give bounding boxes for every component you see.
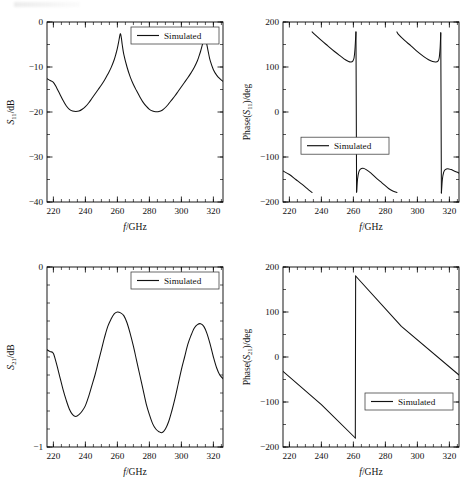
x-tick-label: 300 [411,206,425,216]
series-line [312,32,356,62]
series-line [47,34,223,112]
chart-svg-s11-magnitude: 2202402602803003200−10−20−30−40f/GHzS11/… [0,0,235,245]
chart-panel-s21-phase: 2202402602803003202001000−100−200f/GHzPh… [236,245,471,490]
series-line [283,371,355,438]
y-tick-label: −40 [29,197,44,207]
y-tick-label: −10 [29,62,44,72]
series-line [47,312,223,433]
legend-label: Simulated [164,276,202,286]
legend-label: Simulated [334,141,372,151]
y-tick-label: −30 [29,152,44,162]
legend-label: Simulated [398,397,436,407]
x-axis-label: f/GHz [359,221,382,232]
chart-svg-s11-phase: 2202402602803003202001000−100−200f/GHzPh… [236,0,471,245]
series-line [397,32,441,62]
y-tick-label: −100 [260,152,279,162]
y-axis-label: Phase(S11)/deg [241,84,253,141]
y-tick-label: 0 [38,17,43,27]
chart-svg-s21-phase: 2202402602803003202001000−100−200f/GHzPh… [236,245,471,490]
legend: Simulated [131,272,219,289]
data-curve-group [47,312,223,433]
x-axis-label: f/GHz [123,221,146,232]
x-tick-label: 260 [347,206,361,216]
x-tick-label: 280 [379,451,393,461]
x-tick-label: 240 [315,451,329,461]
x-tick-label: 240 [79,206,93,216]
figure-panel-grid: 2202402602803003200−10−20−30−40f/GHzS11/… [0,0,471,490]
x-tick-label: 220 [283,206,297,216]
chart-panel-s11-magnitude: 2202402602803003200−10−20−30−40f/GHzS11/… [0,0,235,245]
x-tick-label: 300 [411,451,425,461]
x-tick-label: 300 [175,451,189,461]
y-tick-label: 0 [274,352,279,362]
y-tick-label: −100 [260,397,279,407]
x-tick-label: 220 [47,206,61,216]
chart-panel-s21-magnitude: 2202402602803003200−1f/GHzS21/dBSimulate… [0,245,235,490]
series-line [356,32,357,192]
x-tick-label: 280 [143,451,157,461]
y-tick-label: 200 [265,17,279,27]
y-tick-label: 0 [38,262,43,272]
y-axis-label: S21/dB [5,344,17,369]
series-line [356,276,459,375]
data-curve-group [47,34,223,112]
x-tick-label: 320 [443,206,457,216]
chart-panel-s11-phase: 2202402602803003202001000−100−200f/GHzPh… [236,0,471,245]
series-line [283,171,312,193]
series-line [441,33,442,193]
x-axis-label: f/GHz [359,466,382,477]
y-tick-label: −200 [260,197,279,207]
y-tick-label: −200 [260,442,279,452]
y-tick-label: 100 [265,62,279,72]
data-curve-group [283,32,459,193]
x-tick-label: 240 [79,451,93,461]
legend: Simulated [301,137,389,154]
y-axis-label: S11/dB [5,99,17,124]
x-tick-label: 320 [207,451,221,461]
legend: Simulated [131,27,219,44]
y-tick-label: 200 [265,262,279,272]
y-tick-label: 0 [274,107,279,117]
x-tick-label: 260 [111,451,125,461]
x-tick-label: 220 [283,451,297,461]
x-axis-label: f/GHz [123,466,146,477]
x-tick-label: 280 [143,206,157,216]
y-axis-label: Phase(S21)/deg [241,328,253,385]
x-tick-label: 260 [347,451,361,461]
y-tick-label: 100 [265,307,279,317]
legend: Simulated [365,393,453,410]
x-tick-label: 300 [175,206,189,216]
series-line [357,168,397,192]
legend-label: Simulated [164,31,202,41]
x-tick-label: 240 [315,206,329,216]
x-tick-label: 260 [111,206,125,216]
y-tick-label: −1 [33,442,43,452]
x-tick-label: 320 [443,451,457,461]
x-tick-label: 320 [207,206,221,216]
x-tick-label: 220 [47,451,61,461]
x-tick-label: 280 [379,206,393,216]
chart-svg-s21-magnitude: 2202402602803003200−1f/GHzS21/dBSimulate… [0,245,235,490]
series-line [441,169,459,193]
data-curve-group [283,276,459,438]
y-tick-label: −20 [29,107,44,117]
